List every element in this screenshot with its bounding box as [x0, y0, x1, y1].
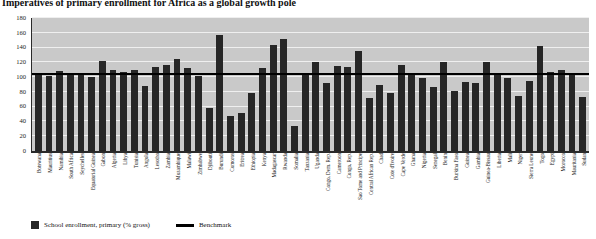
x-label-slot: Mozambique [171, 152, 182, 210]
x-label-slot: Gambia [470, 152, 481, 210]
x-label-slot: Lesotho [150, 152, 161, 210]
bar-slot [524, 18, 535, 151]
x-label-slot: Sierra Leone [524, 152, 535, 210]
x-axis-labels: BotswanaMauritiusNamibiaSouth AfricaSeyc… [31, 152, 589, 210]
y-axis-tick: 0 [23, 148, 26, 155]
bar [547, 72, 554, 151]
legend-entry-enrollment: School enrollment, primary (% gross) [31, 221, 150, 229]
bar [579, 97, 586, 151]
y-axis-tick: 180 [16, 15, 26, 22]
bar-slot [54, 18, 65, 151]
bar [67, 75, 74, 151]
bar [131, 70, 138, 151]
y-axis-tick: 140 [16, 44, 26, 51]
x-label-slot: Mauritius [43, 152, 54, 210]
chart-legend: School enrollment, primary (% gross) Ben… [31, 218, 257, 232]
bar-slot [278, 18, 289, 151]
bar-slot [268, 18, 279, 151]
x-label-slot: Madagascar [267, 152, 278, 210]
x-label-slot: Morocco [556, 152, 567, 210]
bar [35, 73, 42, 151]
bar [387, 93, 394, 151]
bar-slot [150, 18, 161, 151]
bar [408, 73, 415, 151]
bar-slot [567, 18, 578, 151]
bar [248, 93, 255, 151]
bar-slot [353, 18, 364, 151]
bar-slot [513, 18, 524, 151]
bar [142, 86, 149, 151]
bar [216, 35, 223, 151]
plot-area [31, 18, 589, 151]
bar [558, 70, 565, 151]
y-axis: 020406080100120140160180 [0, 18, 29, 151]
bar-slot [44, 18, 55, 151]
bar [440, 62, 447, 151]
bar [472, 83, 479, 151]
x-label-slot: Cape Verde [395, 152, 406, 210]
x-label-slot: Libya [118, 152, 129, 210]
bar [334, 66, 341, 151]
bar-slot [204, 18, 215, 151]
bar-slot [246, 18, 257, 151]
bar-slot [310, 18, 321, 151]
x-label-slot: Benin [438, 152, 449, 210]
bar [504, 78, 511, 151]
bar [238, 113, 245, 151]
x-label-slot: Zambia [160, 152, 171, 210]
y-axis-tick: 20 [20, 133, 27, 140]
bar-slot [492, 18, 503, 151]
x-label-slot: Central African Rep. [363, 152, 374, 210]
x-label-slot: Congo, Rep. [342, 152, 353, 210]
bar [184, 68, 191, 151]
bar-slot [86, 18, 97, 151]
bar-slot [172, 18, 183, 151]
x-label-slot: Cameroon [331, 152, 342, 210]
bar [494, 73, 501, 151]
x-label-slot: Senegal [427, 152, 438, 210]
y-axis-tick: 40 [20, 118, 27, 125]
y-axis-tick: 160 [16, 30, 26, 37]
bar-slot [342, 18, 353, 151]
bar [152, 67, 159, 151]
bar [195, 76, 202, 151]
x-label-slot: Liberia [492, 152, 503, 210]
x-label-slot: Comoros [224, 152, 235, 210]
y-axis-tick: 120 [16, 59, 26, 66]
bar [515, 96, 522, 151]
bar-slot [577, 18, 588, 151]
bar-slot [214, 18, 225, 151]
bar-slot [108, 18, 119, 151]
x-label-slot: Botswana [32, 152, 43, 210]
bar [451, 91, 458, 151]
x-label-slot: Algeria [107, 152, 118, 210]
x-label-slot: Togo [534, 152, 545, 210]
legend-label-benchmark: Benchmark [199, 221, 231, 229]
bar-slot [364, 18, 375, 151]
x-label-slot: Uganda [310, 152, 321, 210]
bar-slot [193, 18, 204, 151]
x-label-slot: Djibouti [203, 152, 214, 210]
x-label-slot: Sao Tome and Principe [353, 152, 364, 210]
bar-slot [417, 18, 428, 151]
bar-slot [129, 18, 140, 151]
bar [462, 82, 469, 151]
x-label-slot: Gabon [96, 152, 107, 210]
bar [483, 62, 490, 151]
bar-slot [481, 18, 492, 151]
bar [302, 74, 309, 151]
x-label-slot: Tanzania [299, 152, 310, 210]
bar [291, 126, 298, 151]
bar [280, 39, 287, 151]
x-label-slot: Guinea-Bissau [481, 152, 492, 210]
bar [88, 77, 95, 151]
x-label-slot: Burundi [214, 152, 225, 210]
bar-slot [407, 18, 418, 151]
bar [376, 85, 383, 151]
y-axis-tick: 60 [20, 103, 27, 110]
x-label-slot: Somalia [289, 152, 300, 210]
bar-slot [225, 18, 236, 151]
bar [259, 68, 266, 151]
bar [398, 65, 405, 151]
x-label-slot: Angola [139, 152, 150, 210]
